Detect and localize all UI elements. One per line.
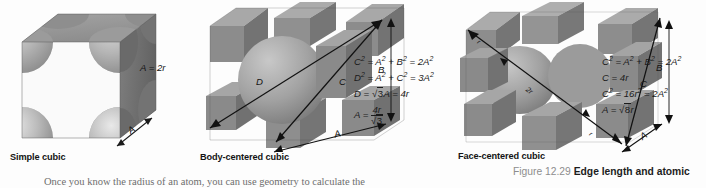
equation-line: D2 = A2 + C2 = 3A2 — [354, 73, 434, 83]
figure-caption-text: Edge length and atomic — [574, 166, 690, 177]
equation-line: C2 = 16r2 = 2A2 — [602, 89, 681, 99]
structure-label-body-centered-cubic: Body-centered cubic — [200, 152, 289, 162]
figure-caption: Figure 12.29 Edge length and atomic — [513, 166, 690, 177]
center-atom-sphere — [238, 36, 326, 124]
equations-face-centered-cubic: C2 = A2 + B2 = 2A2 C = 4r C2 = 16r2 = 2A… — [602, 57, 681, 115]
panel-body-centered-cubic: D C B A C2 = A2 + B2 = 2A2 D2 = A2 + C2 … — [196, 0, 452, 188]
body-text-fragment: Once you know the radius of an atom, you… — [44, 176, 464, 188]
figure-container: A = 2r A Simple cubic — [0, 0, 706, 188]
equation-line: C2 = A2 + B2 = 2A2 — [354, 57, 434, 67]
panel-simple-cubic: A = 2r A Simple cubic — [0, 0, 200, 188]
edge-label-A2r: A = 2r — [140, 62, 166, 73]
structure-label-face-centered-cubic: Face-centered cubic — [458, 151, 545, 161]
equation-line: D = √3A = 4r — [354, 89, 434, 99]
figure-caption-number: Figure 12.29 — [513, 166, 571, 177]
equation-line: C2 = A2 + B2 = 2A2 — [602, 57, 681, 67]
equations-body-centered-cubic: C2 = A2 + B2 = 2A2 D2 = A2 + C2 = 3A2 D … — [354, 57, 434, 127]
diagonal-label-D: D — [256, 76, 263, 87]
equation-line: C = 4r — [602, 73, 681, 83]
equation-line: A = √8r — [602, 105, 681, 115]
diagonal-label-C: C — [339, 76, 346, 87]
structure-label-simple-cubic: Simple cubic — [10, 152, 65, 162]
panel-face-centered-cubic: r 2r r C B A C2 = A2 + B2 = 2A2 C = 4r C… — [450, 0, 706, 188]
equation-line: A = 4r√3 — [354, 105, 434, 126]
